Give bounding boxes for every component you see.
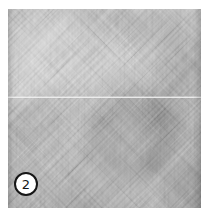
right-edge-shade [193,9,201,208]
badge-label: 2 [22,177,30,190]
material-sample-photo: 2 [8,9,201,208]
left-edge-shade [8,9,14,208]
number-badge: 2 [14,172,38,196]
seam-line [8,97,201,99]
page: 2 [0,0,208,224]
seam-shadow [8,98,201,99]
